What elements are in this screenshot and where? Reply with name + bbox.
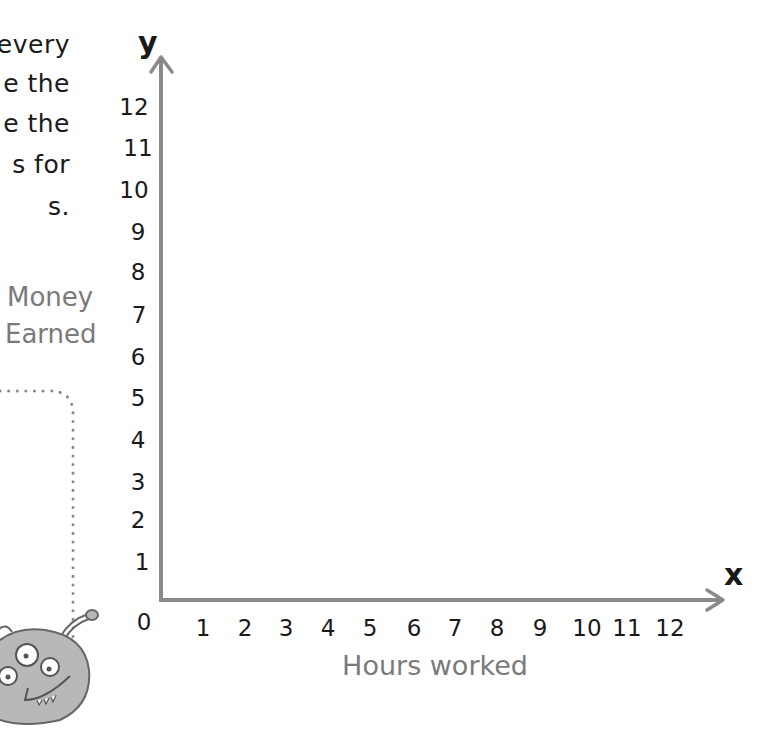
y-tick-3: 3: [131, 471, 146, 494]
y-axis: [151, 57, 172, 601]
y-tick-6: 6: [131, 346, 146, 369]
y-tick-8: 8: [131, 261, 146, 284]
x-tick-12: 12: [655, 617, 684, 640]
x-tick-5: 5: [363, 617, 378, 640]
x-tick-4: 4: [321, 617, 336, 640]
y-tick-7: 7: [132, 304, 147, 327]
chart-axes: [0, 0, 769, 753]
y-tick-2: 2: [131, 509, 146, 532]
x-tick-11: 11: [612, 617, 641, 640]
x-tick-6: 6: [407, 617, 422, 640]
y-tick-4: 4: [131, 429, 146, 452]
x-tick-7: 7: [448, 617, 463, 640]
x-axis: [159, 590, 723, 610]
y-tick-11: 11: [123, 137, 152, 160]
y-tick-9: 9: [131, 221, 146, 244]
y-axis-letter: y: [138, 28, 158, 58]
y-tick-1: 1: [135, 551, 150, 574]
origin-label: 0: [137, 611, 152, 634]
x-tick-8: 8: [490, 617, 505, 640]
x-axis-title: Hours worked: [342, 652, 528, 679]
y-tick-10: 10: [119, 179, 148, 202]
x-tick-2: 2: [238, 617, 253, 640]
x-tick-10: 10: [572, 617, 601, 640]
y-tick-5: 5: [131, 387, 146, 410]
x-tick-9: 9: [533, 617, 548, 640]
x-tick-3: 3: [279, 617, 294, 640]
x-axis-letter: x: [724, 560, 743, 590]
x-tick-1: 1: [196, 617, 211, 640]
y-tick-12: 12: [119, 96, 148, 119]
